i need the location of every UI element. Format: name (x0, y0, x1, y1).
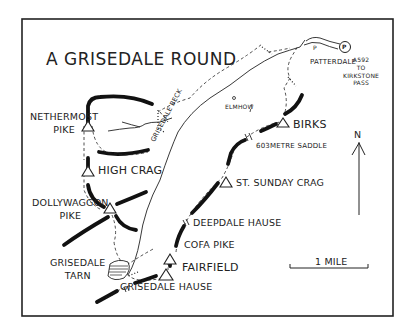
label-elmhow: ELMHOW (225, 104, 254, 110)
label-603-metre-saddle: 603METRE SADDLE (256, 143, 327, 150)
label-grisedale-hause: GRISEDALE HAUSE (120, 282, 212, 292)
triangle-icon (82, 166, 94, 176)
triangle-icon (159, 269, 173, 280)
label-line: GRISEDALE (50, 258, 106, 268)
label-st-sunday-crag: ST. SUNDAY CRAG (236, 178, 324, 188)
label-p-small: P (313, 45, 317, 51)
label-line: PIKE (30, 125, 98, 135)
label-dollywaggon-pike: DOLLYWAGGON PIKE (32, 198, 109, 220)
label-nethermost-pike: NETHERMOST PIKE (30, 112, 98, 134)
label-line: KIRKSTONE (343, 72, 379, 80)
map-title: A GRISEDALE ROUND (46, 51, 237, 68)
elmhow-marker-icon (233, 97, 236, 100)
road-a592 (304, 37, 340, 49)
label-grisedale-tarn: GRISEDALE TARN (50, 258, 106, 280)
label-birks: BIRKS (293, 119, 327, 130)
label-deepdale-hause: DEEPDALE HAUSE (193, 218, 281, 228)
label-line: TO (343, 64, 379, 72)
triangle-icon (164, 254, 176, 264)
label-line: DOLLYWAGGON (32, 198, 109, 208)
label-a592-kirkstone: A592 TO KIRKSTONE PASS (343, 56, 379, 87)
label-line: PASS (343, 79, 379, 87)
label-line: PIKE (32, 211, 109, 221)
label-fairfield: FAIRFIELD (182, 262, 239, 273)
north-arrow-icon (352, 142, 365, 215)
label-cofa-pike: COFA PIKE (184, 240, 235, 250)
scale-label: 1 MILE (315, 257, 348, 267)
north-label: N (354, 130, 361, 140)
label-high-crag: HIGH CRAG (98, 165, 162, 176)
label-line: NETHERMOST (30, 112, 98, 122)
label-line: A592 (343, 56, 379, 64)
grisedale-tarn-icon (108, 260, 129, 279)
label-parking-p: P (342, 44, 347, 50)
label-line: TARN (50, 271, 106, 281)
